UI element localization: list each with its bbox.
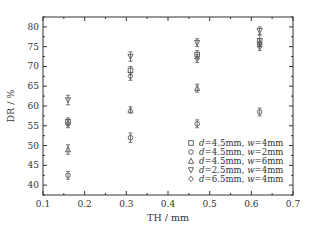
diamond-marker — [189, 176, 194, 182]
x-tick-label: 0.3 — [119, 199, 134, 209]
x-tick-labels: 0.10.20.30.40.50.60.7 — [36, 199, 301, 209]
series-triangle-up — [65, 39, 262, 155]
y-tick-labels: 404550556065707580 — [28, 22, 40, 190]
triangle-up-marker — [188, 158, 193, 163]
series-diamond — [66, 43, 262, 128]
scatter-chart: 0.10.20.30.40.50.60.7 404550556065707580… — [0, 0, 313, 232]
y-tick-label: 45 — [28, 160, 40, 170]
y-tick-label: 40 — [28, 180, 40, 190]
x-tick-label: 0.5 — [203, 199, 218, 209]
x-tick-label: 0.2 — [78, 199, 92, 209]
circle-marker — [189, 150, 194, 155]
y-tick-label: 70 — [28, 61, 40, 71]
y-tick-label: 60 — [28, 101, 40, 111]
y-tick-label: 65 — [28, 81, 40, 91]
y-axis-label: DR / % — [5, 89, 16, 122]
y-tick-label: 50 — [28, 141, 40, 151]
x-axis-label: TH / mm — [147, 212, 189, 223]
y-tick-label: 55 — [28, 121, 40, 131]
series-square — [66, 35, 262, 126]
triangle-down-marker — [188, 168, 193, 173]
legend-item: d=6.5mm, w=4mm — [189, 174, 284, 184]
square-marker — [189, 141, 194, 146]
legend-label: d=6.5mm, w=4mm — [199, 174, 283, 184]
y-tick-label: 75 — [28, 42, 40, 52]
series-triangle-down — [65, 27, 262, 105]
x-tick-label: 0.6 — [244, 199, 259, 209]
y-tick-label: 80 — [28, 22, 40, 32]
x-tick-label: 0.4 — [161, 199, 176, 209]
legend: d=4.5mm, w=4mmd=4.5mm, w=2mmd=4.5mm, w=6… — [188, 138, 283, 184]
x-tick-label: 0.1 — [36, 199, 50, 209]
x-tick-label: 0.7 — [286, 199, 301, 209]
